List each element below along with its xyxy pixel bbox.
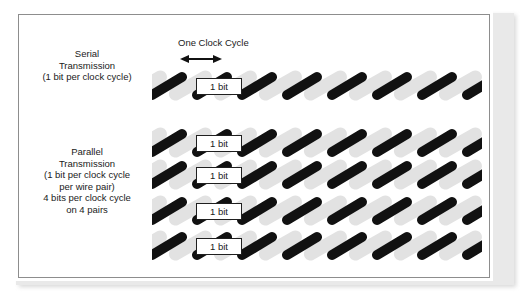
parallel-label-line-5: 4 bits per clock cycle xyxy=(12,192,162,204)
parallel-cable-row: 1 bit xyxy=(152,158,482,192)
serial-label-line-1: Serial xyxy=(12,48,162,60)
serial-cable-row: 1 bit xyxy=(152,69,482,103)
parallel-cable-row: 1 bit xyxy=(152,126,482,160)
parallel-transmission-label: Parallel Transmission (1 bit per clock c… xyxy=(12,146,162,216)
serial-label-line-3: (1 bit per clock cycle) xyxy=(12,71,162,83)
parallel-label-line-3: (1 bit per clock cycle xyxy=(12,169,162,181)
serial-label-line-2: Transmission xyxy=(12,60,162,72)
bit-box: 1 bit xyxy=(196,167,242,184)
parallel-label-line-1: Parallel xyxy=(12,146,162,158)
bit-box: 1 bit xyxy=(196,203,242,220)
double-headed-arrow-icon xyxy=(180,53,222,65)
one-clock-cycle-label: One Clock Cycle xyxy=(178,37,249,48)
parallel-cable-row: 1 bit xyxy=(152,229,482,263)
parallel-cable-row: 1 bit xyxy=(152,194,482,228)
parallel-label-line-2: Transmission xyxy=(12,158,162,170)
bit-box: 1 bit xyxy=(196,135,242,152)
parallel-label-line-6: on 4 pairs xyxy=(12,204,162,216)
serial-transmission-label: Serial Transmission (1 bit per clock cyc… xyxy=(12,48,162,83)
parallel-label-line-4: per wire pair) xyxy=(12,181,162,193)
bit-box: 1 bit xyxy=(196,238,242,255)
bit-box: 1 bit xyxy=(196,78,242,95)
